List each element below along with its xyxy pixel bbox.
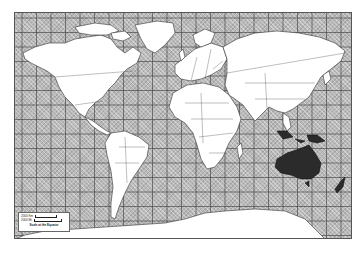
new-guinea [307, 135, 325, 143]
scale-bar: 2000 Km 2000 Mi Scale at the Equator [18, 212, 70, 232]
greenland [135, 21, 175, 53]
europe [175, 43, 227, 81]
australia [275, 145, 321, 179]
indonesia [277, 131, 305, 143]
world-map [14, 12, 352, 239]
continents [15, 13, 352, 239]
north-america [23, 35, 141, 117]
tasmania [305, 181, 309, 187]
scale-caption: Scale at the Equator [21, 223, 67, 227]
central-america [85, 117, 111, 135]
new-zealand [335, 177, 345, 193]
scale-mi-label: 2000 Mi [21, 218, 32, 222]
south-america [105, 131, 149, 219]
